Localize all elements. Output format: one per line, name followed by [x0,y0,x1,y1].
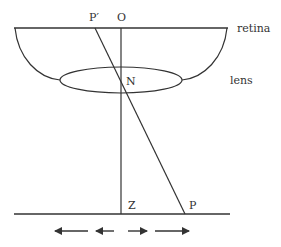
label-n: N [126,75,136,88]
ray-line-p-to-p-prime [95,28,185,214]
eye-left-wall [15,28,60,80]
label-retina: retina [237,22,271,35]
eye-optics-diagram: P′ O retina N lens Z P [0,0,281,247]
eye-right-wall [182,28,227,80]
label-lens: lens [230,74,253,87]
label-o: O [117,11,126,24]
label-p: P [189,199,197,212]
label-z: Z [128,199,136,212]
label-p-prime: P′ [89,11,99,24]
